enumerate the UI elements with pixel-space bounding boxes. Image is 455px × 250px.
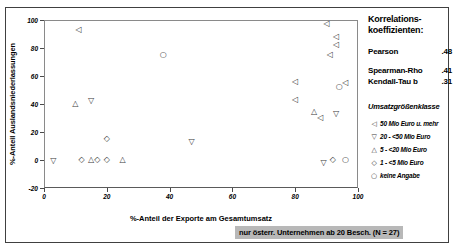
scatter-plot-figure: %-Anteil Auslandsniederlassungen %-Antei… bbox=[0, 0, 455, 250]
data-point-glyph: ◁ bbox=[327, 51, 333, 59]
data-point-glyph: ◁ bbox=[292, 96, 298, 104]
data-point-glyph: △ bbox=[311, 108, 317, 116]
legend-item: ▽20 - <50 Mio Euro bbox=[368, 130, 452, 143]
y-axis-tick-label: 0 bbox=[34, 157, 38, 164]
legend-item-label: 20 - <50 Mio Euro bbox=[380, 133, 430, 140]
data-point-glyph: ◇ bbox=[104, 135, 110, 143]
correlation-heading-line1: Korrelations- bbox=[368, 14, 452, 25]
data-point-glyph: ◁ bbox=[292, 78, 298, 86]
y-axis-tick-label: 80 bbox=[31, 45, 38, 52]
correlation-label-kendall: Kendall-Tau b bbox=[368, 77, 418, 86]
y-axis-title: %-Anteil Auslandsniederlassungen bbox=[8, 20, 22, 188]
x-axis-tick-label: 20 bbox=[103, 193, 110, 200]
legend-item: ○keine Angabe bbox=[368, 169, 452, 182]
x-axis-tick-label: 0 bbox=[42, 193, 46, 200]
data-point-glyph: ◁ bbox=[342, 79, 348, 87]
data-point-glyph: ○ bbox=[336, 83, 343, 91]
correlation-row-spearman: Spearman-Rho .41 bbox=[368, 66, 452, 75]
data-point-glyph: ▽ bbox=[50, 157, 56, 165]
y-axis-tick-label: 40 bbox=[31, 101, 38, 108]
x-axis-tick bbox=[107, 188, 108, 192]
data-point-glyph: ◁ bbox=[317, 114, 323, 122]
data-point-glyph: ◇ bbox=[104, 156, 110, 164]
data-point-glyph: △ bbox=[119, 156, 125, 164]
x-axis-tick-label: 80 bbox=[292, 193, 299, 200]
correlation-row-kendall: Kendall-Tau b .31 bbox=[368, 77, 452, 86]
data-point-glyph: ◇ bbox=[330, 156, 336, 164]
y-axis-tick-label: 60 bbox=[31, 73, 38, 80]
x-axis-tick bbox=[44, 188, 45, 192]
x-axis-tick bbox=[295, 188, 296, 192]
legend-item-label: keine Angabe bbox=[380, 172, 420, 179]
x-axis-tick bbox=[170, 188, 171, 192]
data-point-glyph: △ bbox=[72, 100, 78, 108]
legend-item-label: 1 - <5 Mio Euro bbox=[380, 159, 423, 166]
data-point-glyph: ○ bbox=[160, 51, 167, 59]
y-axis-tick bbox=[40, 132, 44, 133]
correlation-heading: Korrelations- koeffizienten: bbox=[368, 14, 452, 36]
data-point-glyph: ◁ bbox=[75, 26, 81, 34]
data-point-glyph: △ bbox=[88, 156, 94, 164]
x-axis-tick bbox=[358, 188, 359, 192]
correlation-heading-line2: koeffizienten: bbox=[368, 25, 452, 36]
y-axis-tick bbox=[40, 160, 44, 161]
y-axis-tick bbox=[40, 76, 44, 77]
data-point-glyph: ▽ bbox=[189, 138, 195, 146]
legend-marker-icon: ○ bbox=[368, 172, 380, 180]
x-axis-tick-label: 100 bbox=[353, 193, 364, 200]
y-axis-tick-label: 100 bbox=[27, 17, 38, 24]
correlation-value-spearman: .41 bbox=[437, 66, 452, 75]
spacer bbox=[368, 36, 452, 45]
correlation-value-pearson: .48 bbox=[437, 47, 452, 56]
data-point-glyph: ◁ bbox=[333, 41, 339, 49]
legend: ◁50 Mio Euro u. mehr▽20 - <50 Mio Euro△5… bbox=[368, 117, 452, 182]
data-point-glyph: ▽ bbox=[333, 110, 339, 118]
legend-title: Umsatzgrößenklasse bbox=[368, 102, 452, 111]
legend-marker-icon: ◁ bbox=[368, 120, 380, 128]
data-point-glyph: ○ bbox=[342, 156, 349, 164]
data-point-glyph: ◇ bbox=[94, 156, 100, 164]
legend-marker-icon: ▽ bbox=[368, 133, 380, 141]
data-point-glyph: ▽ bbox=[88, 97, 94, 105]
x-axis-tick-label: 40 bbox=[166, 193, 173, 200]
chart-note-caption: nur österr. Unternehmen ab 20 Besch. (N … bbox=[235, 226, 403, 239]
correlation-value-kendall: .31 bbox=[437, 77, 452, 86]
y-axis-tick bbox=[40, 48, 44, 49]
data-point-glyph: ◇ bbox=[79, 156, 85, 164]
y-axis-tick-label: 20 bbox=[31, 129, 38, 136]
x-axis-tick bbox=[232, 188, 233, 192]
y-axis-tick bbox=[40, 20, 44, 21]
legend-item: △5 - <20 Mio Euro bbox=[368, 143, 452, 156]
y-axis-tick-label: -20 bbox=[29, 185, 38, 192]
x-axis-title: %-Anteil der Exporte am Gesamtumsatz bbox=[44, 214, 358, 223]
legend-marker-icon: ◇ bbox=[368, 159, 380, 167]
correlation-row-pearson: Pearson .48 bbox=[368, 47, 452, 56]
plot-data-area: -20020406080100020406080100◁◁◁◁◁◁◁◁◁▽▽▽▽… bbox=[44, 20, 358, 188]
spacer bbox=[368, 56, 452, 64]
y-axis-tick bbox=[40, 104, 44, 105]
x-axis-tick-label: 60 bbox=[229, 193, 236, 200]
data-point-glyph: ▽ bbox=[320, 159, 326, 167]
correlation-label-pearson: Pearson bbox=[368, 47, 398, 56]
legend-item: ◁50 Mio Euro u. mehr bbox=[368, 117, 452, 130]
legend-item-label: 50 Mio Euro u. mehr bbox=[380, 120, 438, 127]
legend-marker-icon: △ bbox=[368, 146, 380, 154]
legend-item: ◇1 - <5 Mio Euro bbox=[368, 156, 452, 169]
statistics-panel: Korrelations- koeffizienten: Pearson .48… bbox=[368, 14, 452, 182]
correlation-label-spearman: Spearman-Rho bbox=[368, 66, 423, 75]
data-point-glyph: ◁ bbox=[324, 20, 330, 28]
legend-item-label: 5 - <20 Mio Euro bbox=[380, 146, 427, 153]
